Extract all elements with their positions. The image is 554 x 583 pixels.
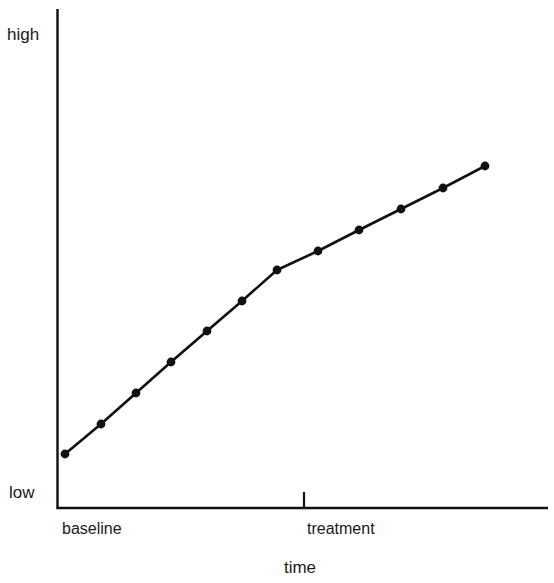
- y-axis-low-label: low: [9, 483, 35, 502]
- data-point-marker: [238, 297, 247, 306]
- data-point-marker: [97, 420, 106, 429]
- line-chart-svg: high low baseline treatment time: [0, 0, 554, 583]
- data-point-marker: [355, 226, 364, 235]
- data-point-marker: [314, 247, 323, 256]
- data-point-marker: [397, 205, 406, 214]
- data-point-marker: [203, 327, 212, 336]
- y-axis-high-label: high: [7, 25, 39, 44]
- x-axis-title: time: [284, 558, 316, 577]
- chart-figure: high low baseline treatment time: [0, 0, 554, 583]
- data-point-marker: [481, 162, 490, 171]
- data-point-marker: [132, 389, 141, 398]
- chart-background: [0, 0, 554, 583]
- data-point-marker: [61, 450, 70, 459]
- data-point-marker: [273, 266, 282, 275]
- x-axis-baseline-phase-label: baseline: [62, 520, 122, 537]
- data-point-marker: [439, 184, 448, 193]
- x-axis-treatment-phase-label: treatment: [307, 520, 375, 537]
- data-point-marker: [167, 358, 176, 367]
